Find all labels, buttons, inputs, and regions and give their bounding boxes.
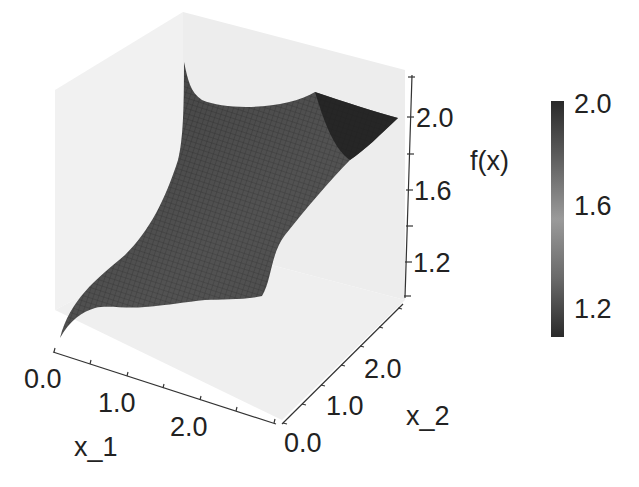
x2-tick-0.0: 0.0 (284, 428, 322, 458)
colorbar: 2.0 1.6 1.2 (551, 89, 612, 337)
z-tick-1.6: 1.6 (414, 176, 452, 206)
z-tick-2.0: 2.0 (416, 103, 454, 133)
x2-tick-1.0: 1.0 (326, 391, 364, 421)
x2-axis-label: x_2 (406, 401, 450, 431)
z-axis-label: f(x) (470, 146, 509, 176)
x1-tick-1.0: 1.0 (98, 388, 136, 418)
z-tick-1.2: 1.2 (413, 248, 451, 278)
colorbar-tick-1.6: 1.6 (574, 191, 612, 221)
colorbar-gradient (551, 101, 564, 337)
x2-tick-2.0: 2.0 (364, 354, 402, 384)
x1-axis-label: x_1 (74, 432, 118, 462)
colorbar-tick-1.2: 1.2 (574, 294, 612, 324)
x1-tick-2.0: 2.0 (170, 412, 208, 442)
surface-plot: 2.0 1.6 1.2 f(x) 0.0 1.0 2.0 x_1 (0, 0, 639, 487)
colorbar-tick-2.0: 2.0 (574, 89, 612, 119)
z-axis: 2.0 1.6 1.2 f(x) (404, 75, 509, 298)
x1-tick-0.0: 0.0 (24, 364, 62, 394)
